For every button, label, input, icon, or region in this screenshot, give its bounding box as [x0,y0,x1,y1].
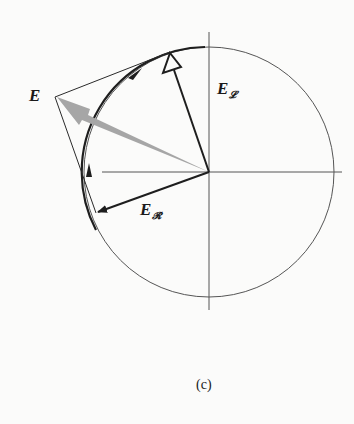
label-e-l-subscript: 𝓛 [229,89,236,100]
label-e-r-text: E [140,200,151,219]
vector-e-l [174,70,209,172]
label-e-l: E𝓛 [217,80,236,100]
label-e-l-text: E [217,79,228,98]
arc-arrow-icon-left [86,163,92,177]
label-e-r-subscript: 𝓡 [152,210,161,221]
figure-caption: (c) [196,377,212,393]
label-e-text: E [29,86,40,105]
phasor-diagram: E E𝓛 E𝓡 (c) [0,0,354,424]
label-e-r: E𝓡 [140,201,161,221]
open-arrowhead-icon [163,53,181,73]
phasor-diagram-svg [0,0,354,424]
label-e: E [29,87,40,104]
